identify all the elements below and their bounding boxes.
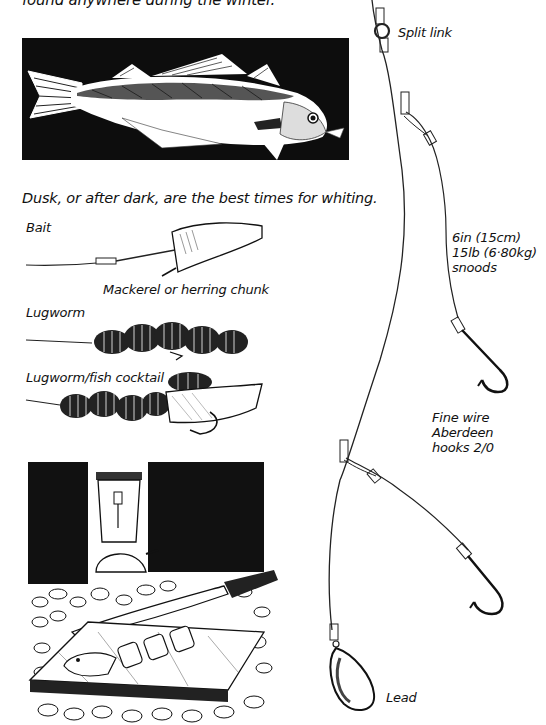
whiting-drawing: [22, 38, 349, 160]
night-scene-illustration: [28, 462, 278, 725]
bait-label-lugworm: Lugworm: [26, 305, 85, 320]
bait-label-mackerel: Mackerel or herring chunk: [103, 282, 269, 297]
fish-caption: Dusk, or after dark, are the best times …: [22, 190, 377, 206]
lead-weight-drawing: [330, 624, 374, 710]
label-lead: Lead: [386, 690, 417, 705]
bait-label-cocktail: Lugworm/fish cocktail: [26, 370, 164, 385]
split-link-drawing: [375, 8, 389, 52]
label-hooks: Fine wire Aberdeen hooks 2/0: [432, 410, 494, 455]
lugworm-drawing: [26, 322, 248, 360]
lantern-knife-fish-drawing: [28, 462, 278, 725]
label-hooks-pattern: Aberdeen: [432, 425, 494, 440]
bait-heading: Bait: [26, 220, 51, 235]
label-snoods-name: snoods: [452, 260, 537, 275]
label-snoods-length: 6in (15cm): [452, 230, 537, 245]
intro-text-fragment: found anywhere during the winter.: [22, 0, 275, 9]
label-split-link: Split link: [398, 25, 452, 40]
label-hooks-type: Fine wire: [432, 410, 494, 425]
whiting-illustration: [22, 38, 349, 160]
label-snoods-strength: 15lb (6·80kg): [452, 245, 537, 260]
mackerel-chunk-drawing: [26, 223, 262, 276]
label-hooks-size: hooks 2/0: [432, 440, 494, 455]
label-snoods: 6in (15cm) 15lb (6·80kg) snoods: [452, 230, 537, 275]
